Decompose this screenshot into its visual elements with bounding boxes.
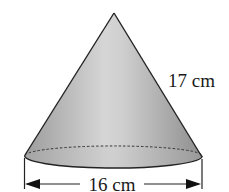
slant-height-label: 17 cm bbox=[168, 70, 215, 91]
arrowhead-left-icon bbox=[25, 179, 40, 189]
diameter-label: 16 cm bbox=[89, 174, 136, 192]
cone-diagram: 17 cm 16 cm bbox=[0, 0, 229, 192]
arrowhead-right-icon bbox=[186, 179, 201, 189]
